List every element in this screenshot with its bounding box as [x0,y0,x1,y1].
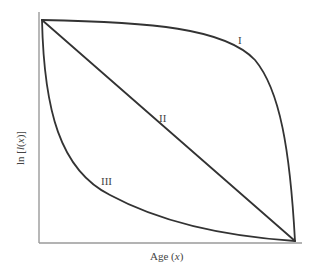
survivorship-chart: I II III Age (x) ln [l(x)] [0,0,326,269]
x-axis-label: Age (x) [150,250,184,263]
curve-II [42,20,295,241]
curve-II-label: II [159,112,167,124]
curve-III-label: III [101,175,112,187]
curve-I-label: I [238,34,242,46]
y-axis-label: ln [l(x)] [14,131,27,165]
